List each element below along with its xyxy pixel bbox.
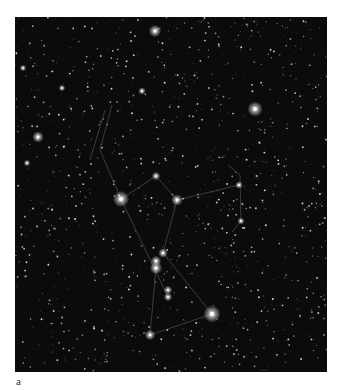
figure-label: a [16,375,21,387]
star-field-photo [15,17,327,372]
sky-image [15,17,327,372]
